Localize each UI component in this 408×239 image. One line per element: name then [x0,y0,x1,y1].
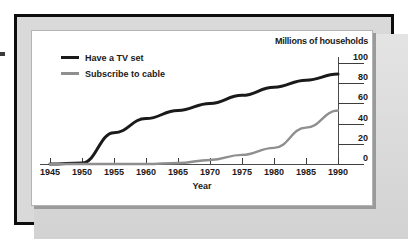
legend-label: Subscribe to cable [85,69,165,79]
page-edge-mark [0,52,5,56]
legend-label: Have a TV set [85,53,144,63]
chart-panel: Millions of households 020406080100 1945… [31,30,373,206]
legend-swatch [61,56,79,59]
legend-swatch [61,72,79,75]
plot-area: Millions of households 020406080100 1945… [32,31,372,205]
figure-root: Millions of households 020406080100 1945… [0,0,408,239]
legend-item: Subscribe to cable [61,67,165,80]
x-axis-title: Year [32,181,372,191]
chart-legend: Have a TV setSubscribe to cable [61,51,165,83]
series-line [50,74,338,164]
legend-item: Have a TV set [61,51,165,64]
